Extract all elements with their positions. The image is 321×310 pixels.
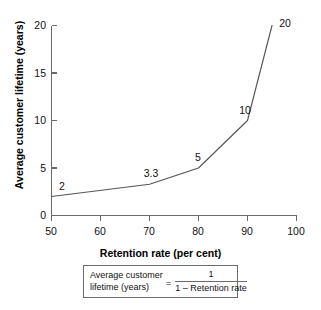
y-axis-ticks [52, 26, 57, 216]
y-tick-label-15: 15 [22, 68, 46, 79]
formula-numerator: 1 [208, 269, 213, 281]
formula-left-side: Average customer lifetime (years) [84, 270, 163, 293]
x-axis-title: Retention rate (per cent) [0, 248, 321, 259]
data-point-label-10: 10 [239, 105, 251, 116]
data-point-label-5: 5 [195, 152, 201, 163]
formula-lhs-line1: Average customer [90, 270, 163, 281]
x-tick-label-80: 80 [192, 226, 204, 237]
formula-equals-sign: = [163, 278, 175, 288]
chart-plot-area [0, 0, 321, 310]
y-tick-label-20: 20 [22, 20, 46, 31]
formula-fraction: 1 1 – Retention rate [175, 269, 252, 294]
y-tick-label-5: 5 [22, 163, 46, 174]
x-tick-label-60: 60 [94, 226, 106, 237]
data-point-label-2: 2 [59, 181, 65, 192]
formula-lhs-line2: lifetime (years) [90, 282, 163, 293]
chart-figure: 20 15 10 5 0 50 60 70 80 90 100 2 3.3 5 … [0, 0, 321, 310]
data-point-label-3.3: 3.3 [144, 168, 159, 179]
x-axis-ticks [52, 216, 297, 221]
y-axis-title: Average customer lifetime (years) [14, 5, 25, 205]
x-tick-label-100: 100 [287, 226, 305, 237]
formula-denominator: 1 – Retention rate [175, 282, 247, 294]
formula-box: Average customer lifetime (years) = 1 1 … [83, 265, 238, 298]
y-tick-label-10: 10 [22, 115, 46, 126]
y-tick-label-0: 0 [22, 210, 46, 221]
x-tick-label-50: 50 [45, 226, 57, 237]
x-tick-label-70: 70 [143, 226, 155, 237]
x-tick-label-90: 90 [241, 226, 253, 237]
data-point-label-20: 20 [279, 18, 291, 29]
